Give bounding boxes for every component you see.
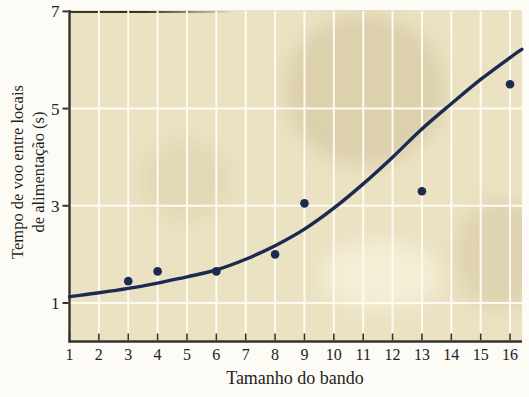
x-tick-label: 9 xyxy=(300,347,308,363)
x-tick-label: 14 xyxy=(443,347,459,363)
y-tick-label: 1 xyxy=(51,295,60,312)
y-axis-title: Tempo de voo entre locais de alimentação… xyxy=(7,85,50,259)
x-tick-label: 4 xyxy=(154,347,162,363)
scan-texture-blob xyxy=(455,200,523,310)
plot-area xyxy=(70,10,523,342)
y-axis-title-line1: Tempo de voo entre locais xyxy=(7,85,28,259)
y-tick-label: 7 xyxy=(51,3,60,20)
scan-texture-blob xyxy=(320,240,440,310)
scan-texture-blob xyxy=(140,140,230,220)
plot-top-border xyxy=(70,11,235,13)
y-tick-label: 3 xyxy=(51,197,60,214)
x-tick-label: 15 xyxy=(473,347,489,363)
x-tick-label: 12 xyxy=(385,347,401,363)
scatter-plot-figure: Tempo de voo entre locais de alimentação… xyxy=(0,0,529,397)
y-axis-title-line2: de alimentação (s) xyxy=(28,85,49,259)
x-tick-label: 11 xyxy=(355,347,370,363)
x-tick-label: 3 xyxy=(124,347,132,363)
y-tick-label: 5 xyxy=(51,100,60,117)
x-tick-label: 1 xyxy=(66,347,74,363)
x-tick-label: 13 xyxy=(414,347,430,363)
x-tick-label: 10 xyxy=(326,347,342,363)
x-tick-label: 7 xyxy=(242,347,250,363)
x-tick-label: 2 xyxy=(95,347,103,363)
x-tick-label: 5 xyxy=(183,347,191,363)
x-tick-label: 6 xyxy=(212,347,220,363)
x-tick-label: 16 xyxy=(502,347,518,363)
scan-texture-blob xyxy=(285,15,445,165)
x-tick-label: 8 xyxy=(271,347,279,363)
x-axis-title: Tamanho do bando xyxy=(226,368,364,389)
